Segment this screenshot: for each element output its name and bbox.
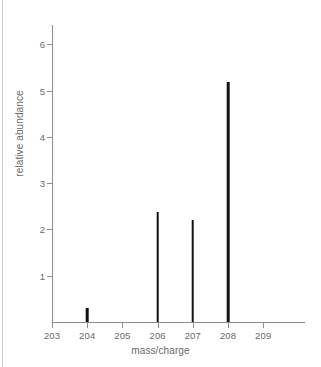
y-tick-label-1: 1 xyxy=(33,270,45,281)
mass-spectrum-figure: 203204205206207208209 123456 mass/charge… xyxy=(0,0,321,367)
x-tick-208 xyxy=(228,323,229,328)
x-tick-207 xyxy=(193,323,194,328)
y-tick-1 xyxy=(47,276,52,277)
x-tick-206 xyxy=(158,323,159,328)
y-tick-5 xyxy=(47,91,52,92)
y-tick-label-5: 5 xyxy=(33,85,45,96)
x-tick-203 xyxy=(52,323,53,328)
x-tick-label-204: 204 xyxy=(79,330,95,341)
x-tick-label-203: 203 xyxy=(44,330,60,341)
peak-bar-206 xyxy=(156,212,159,322)
x-axis-title: mass/charge xyxy=(0,345,321,356)
x-tick-label-208: 208 xyxy=(220,330,236,341)
y-tick-6 xyxy=(47,44,52,45)
y-tick-2 xyxy=(47,229,52,230)
y-tick-3 xyxy=(47,183,52,184)
x-tick-209 xyxy=(263,323,264,328)
x-tick-label-206: 206 xyxy=(150,330,166,341)
y-axis-line xyxy=(52,25,53,323)
x-tick-label-209: 209 xyxy=(255,330,271,341)
x-tick-204 xyxy=(87,323,88,328)
y-tick-label-3: 3 xyxy=(33,178,45,189)
y-tick-4 xyxy=(47,137,52,138)
y-tick-label-6: 6 xyxy=(33,39,45,50)
x-tick-205 xyxy=(122,323,123,328)
x-tick-label-205: 205 xyxy=(114,330,130,341)
x-axis-line xyxy=(52,322,305,323)
peak-bar-207 xyxy=(192,220,195,322)
peak-bar-208 xyxy=(227,82,230,322)
y-tick-label-4: 4 xyxy=(33,131,45,142)
peak-bar-204 xyxy=(86,308,89,322)
y-axis-title: relative abundance xyxy=(14,64,25,204)
x-tick-label-207: 207 xyxy=(185,330,201,341)
y-tick-label-2: 2 xyxy=(33,224,45,235)
plot-area: 203204205206207208209 123456 mass/charge… xyxy=(0,0,321,367)
